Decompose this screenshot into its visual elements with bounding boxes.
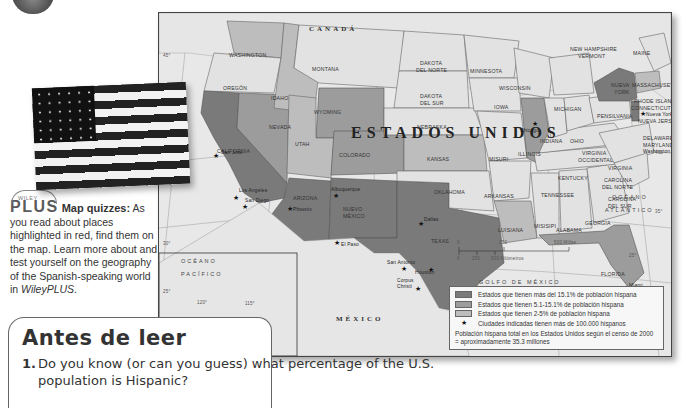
label-nueva-jersey: NUEVA JERSEY — [638, 118, 672, 124]
label-indiana: INDIANA — [540, 138, 562, 144]
label-lat-40: 40° — [655, 150, 662, 156]
label-delaware: DELAWARE — [643, 135, 672, 141]
city-star-icon: ★ — [532, 120, 538, 127]
question-number: 1. — [22, 355, 38, 372]
label-ohio: OHIO — [570, 138, 584, 144]
label-michigan: MICHIGAN — [554, 106, 582, 112]
legend-note: Población hispana total en los Estados U… — [455, 330, 658, 346]
label-washington: WASHINGTON — [229, 52, 266, 58]
label-virginia-occ-1: VIRGINIA — [582, 150, 606, 156]
label-new-hampshire: NEW HAMPSHIRE — [570, 46, 617, 52]
label-oklahoma: OKLAHOMA — [434, 189, 465, 195]
label-gulf: GOLFO DE MÉXICO — [479, 279, 561, 285]
label-lon-120: 120° — [197, 300, 207, 306]
scale-miles-0: 0 — [457, 240, 460, 246]
question-text-line-1: Do you know (or can you guess) what perc… — [38, 356, 434, 371]
label-corpus-christi-2: Christi — [397, 284, 412, 290]
label-arizona: ARIZONA — [293, 195, 317, 201]
label-carolina-sur-1: CAROLINA — [608, 196, 636, 202]
city-star-icon: ★ — [333, 192, 339, 199]
flag-canton — [32, 86, 96, 144]
label-dakota-sur-1: DAKOTA — [420, 93, 442, 99]
label-massachusetts: MASSACHUSETTS — [632, 82, 672, 88]
label-nueva-york-city: Nueva York — [646, 112, 672, 118]
legend-swatch-5-15 — [455, 301, 472, 308]
label-carolina-sur-2: DEL SUR — [608, 203, 632, 209]
label-pensilvania: PENSILVANIA — [597, 113, 632, 119]
wiley-plus-callout: WILEY PLUS Map quizzes: As you read abou… — [10, 200, 160, 297]
wiley-plus-logo[interactable]: WILEY PLUS — [10, 200, 59, 216]
label-idaho: IDAHO — [271, 95, 288, 101]
label-nuevo-mexico-2: MÉXICO — [343, 213, 365, 219]
label-texas: TEXAS — [431, 238, 449, 244]
label-pacific-1: OCÉANO — [181, 258, 217, 264]
legend-item: ★ Ciudades indicadas tienen más de 100.0… — [455, 319, 658, 329]
label-maine: MAINE — [633, 50, 650, 56]
question-item: 1.Do you know (or can you guess) what pe… — [22, 355, 502, 389]
label-lon-115: 115° — [245, 301, 255, 307]
label-los-angeles: Los Angeles — [239, 188, 267, 194]
label-nueva-york-1: NUEVA — [611, 82, 630, 88]
label-arkansas: ARKANSAS — [484, 193, 514, 199]
label-chicago: Chicago — [520, 128, 539, 134]
legend-label: Ciudades indicadas tienen más de 100.000… — [478, 320, 626, 327]
city-star-icon: ★ — [401, 265, 407, 272]
label-alabama: ALABAMA — [556, 227, 582, 233]
label-wyoming: WYOMING — [314, 109, 341, 115]
star-icon: ★ — [455, 319, 472, 327]
city-star-icon: ★ — [242, 203, 248, 210]
section-title: Antes de leer — [22, 326, 186, 350]
label-illinois: ILLINOIS — [518, 151, 541, 157]
label-vermont: VERMONT — [578, 53, 605, 59]
label-virginia: VIRGINIA — [608, 165, 632, 171]
label-utah: UTAH — [295, 141, 310, 147]
label-colorado: COLORADO — [339, 152, 370, 158]
legend-item: Estados que tienen 5.1-15.1% de població… — [455, 300, 658, 310]
label-rhode-island: RHODE ISLAND — [634, 98, 672, 104]
wiley-plus-link[interactable]: WileyPLUS — [21, 283, 74, 295]
label-nueva-york-2: YORK — [614, 89, 630, 95]
city-star-icon: ★ — [213, 152, 219, 159]
label-canada: CANADÁ — [309, 26, 357, 32]
label-maryland: MARYLAND — [643, 142, 672, 148]
label-iowa: IOWA — [494, 104, 508, 110]
label-oregon: OREGÓN — [223, 85, 247, 91]
label-dallas: Dallas — [424, 217, 439, 223]
label-san-antonio: San Antonio — [387, 260, 415, 266]
legend-item: Estados que tienen 2-5% de población his… — [455, 309, 658, 319]
label-georgia: GEORGIA — [585, 220, 611, 226]
label-dakota-sur-2: DEL SUR — [420, 100, 444, 106]
label-kentucky: KENTUCKY — [558, 175, 588, 181]
label-wisconsin: WISCONSIN — [499, 85, 531, 91]
scale-km-250: 250 — [472, 256, 480, 262]
logo-wiley-text: WILEY — [18, 192, 38, 206]
label-lat-35: 35° — [655, 209, 662, 215]
label-lat-30: 30° — [163, 241, 170, 247]
legend-swatch-2-5 — [455, 310, 472, 317]
label-nuevo-mexico-1: NUEVO — [343, 206, 362, 212]
label-houston: Houston — [415, 270, 434, 276]
label-luisiana: LUISIANA — [498, 227, 523, 233]
legend-swatch-over-15 — [455, 291, 472, 298]
label-kansas: KANSAS — [427, 156, 449, 162]
label-minnesota: MINNESOTA — [470, 68, 502, 74]
label-virginia-occ-2: OCCIDENTAL — [578, 157, 613, 163]
city-star-icon: ★ — [233, 194, 239, 201]
callout-text: As you read about places highlighted in … — [10, 202, 157, 295]
callout-text-end: . — [74, 283, 77, 295]
label-lat-45: 45° — [163, 53, 170, 59]
label-montana: MONTANA — [312, 66, 339, 72]
label-el-paso: El Paso — [341, 242, 359, 248]
label-nebraska: NEBRASKA — [417, 124, 447, 130]
us-flag-image — [32, 82, 190, 191]
scale-km-500: 500 Kilómetros — [491, 256, 524, 262]
label-san-jose: San José — [221, 150, 243, 156]
scale-miles-500: 500 Millas — [554, 240, 576, 246]
label-mexico: MÉXICO — [336, 316, 384, 322]
legend-label: Estados que tienen más del 15.1% de pobl… — [478, 291, 637, 298]
label-tennessee: TENNESSEE — [541, 192, 574, 198]
label-connecticut: CONNECTICUT — [631, 105, 671, 111]
label-san-diego: San Diego — [245, 198, 269, 204]
label-dakota-norte-1: DAKOTA — [420, 60, 442, 66]
chapter-icon — [12, 0, 54, 14]
